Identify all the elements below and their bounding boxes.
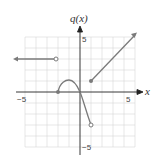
x-tick-neg5: −5 bbox=[17, 95, 27, 104]
open-dot bbox=[54, 57, 58, 61]
y-axis-label: q(x) bbox=[70, 12, 88, 25]
x-axis-label: x bbox=[144, 85, 150, 97]
y-tick-neg5: −5 bbox=[82, 143, 92, 152]
function-graph: q(x) x −5 5 5 −5 bbox=[0, 0, 155, 164]
y-tick-5: 5 bbox=[82, 35, 87, 44]
x-tick-5: 5 bbox=[126, 95, 131, 104]
middle-curve bbox=[58, 80, 91, 125]
left-arrow-icon bbox=[13, 57, 18, 62]
closed-dot bbox=[56, 90, 60, 94]
open-dot bbox=[89, 123, 93, 127]
closed-dot bbox=[89, 79, 93, 83]
markers bbox=[13, 33, 137, 95]
curves bbox=[16, 35, 135, 125]
